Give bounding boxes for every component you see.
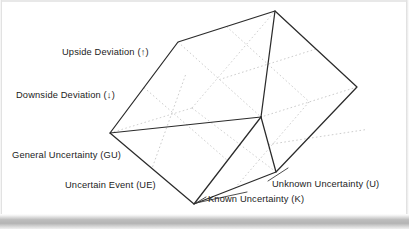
grid-left-b <box>152 75 186 169</box>
cube-front-edge-top <box>261 11 275 117</box>
label-downside-deviation: Downside Deviation (↓) <box>16 90 115 101</box>
label-known-uncertainty: Known Uncertainty (K) <box>208 194 304 205</box>
label-upside-deviation: Upside Deviation (↑) <box>62 47 149 58</box>
cube-visible-edges <box>110 11 357 204</box>
label-uncertain-event: Uncertain Event (UE) <box>65 180 156 191</box>
cube-interior-grid <box>144 27 367 189</box>
cube-hidden-edges <box>110 11 276 172</box>
cube-front-edge-right <box>261 117 276 172</box>
grid-right-b <box>269 130 367 145</box>
grid-right-a <box>235 102 309 188</box>
cube-diagram <box>0 0 409 229</box>
label-unknown-uncertainty: Unknown Uncertainty (U) <box>272 179 379 190</box>
cube-outline <box>110 11 357 204</box>
page-scan-bar <box>0 214 409 229</box>
figure-container: Upside Deviation (↑) Downside Deviation … <box>0 0 409 229</box>
cube-front-edge-left <box>110 117 261 133</box>
grid-left-a <box>144 88 228 162</box>
label-general-uncertainty: General Uncertainty (GU) <box>12 150 121 161</box>
